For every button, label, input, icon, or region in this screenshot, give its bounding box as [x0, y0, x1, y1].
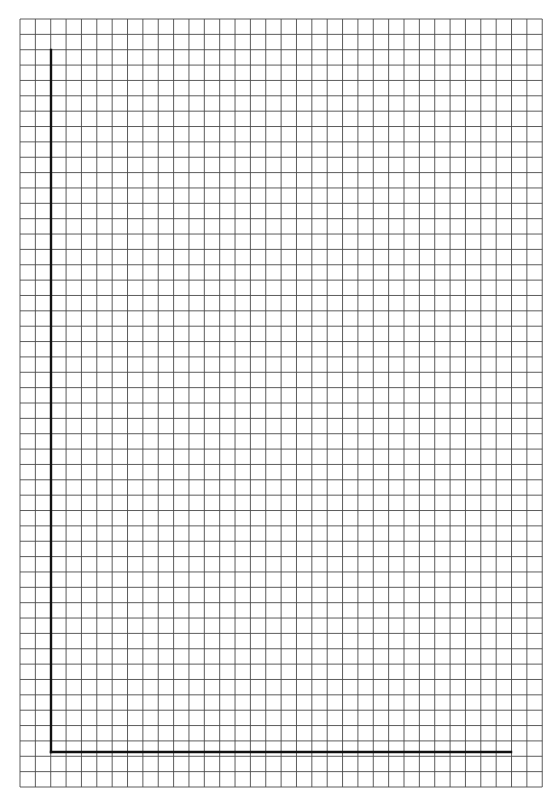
grid-lines: [20, 19, 542, 787]
graph-paper: [0, 0, 559, 805]
